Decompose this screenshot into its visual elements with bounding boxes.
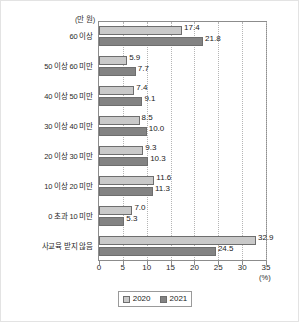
bar-value-label: 32.9 (258, 233, 274, 242)
bar-2020 (99, 56, 127, 65)
category-label: 사교육 받지 않음 (7, 232, 93, 262)
bar-value-label: 10.3 (150, 154, 166, 163)
bar-2021 (99, 97, 142, 106)
x-tick-label: 35 (262, 263, 271, 272)
bar-group: 40 이상 50 미만7.49.1 (99, 82, 266, 112)
bar-2020 (99, 146, 143, 155)
bar-value-label: 5.3 (126, 214, 137, 223)
plot-area: 60 이상17.421.850 이상 60 미만5.97.740 이상 50 미… (98, 21, 267, 261)
bar-2021 (99, 127, 147, 136)
bar-2020 (99, 176, 154, 185)
bar-value-label: 11.6 (156, 173, 171, 182)
bar-value-label: 7.4 (136, 83, 147, 92)
bar-2021 (99, 247, 216, 256)
bar-group: 10 이상 20 미만11.611.3 (99, 172, 266, 202)
category-label: 20 이상 30 미만 (7, 142, 93, 172)
legend-swatch-icon (123, 296, 130, 303)
bar-group: 30 이상 40 미만8.510.0 (99, 112, 266, 142)
bar-2021 (99, 37, 203, 46)
bar-value-label: 7.0 (134, 203, 145, 212)
bar-value-label: 10.0 (149, 124, 165, 133)
x-tick-label: 5 (121, 263, 125, 272)
category-label: 0 초과 10 미만 (7, 202, 93, 232)
category-label: 50 이상 60 미만 (7, 52, 93, 82)
bar-group: 50 이상 60 미만5.97.7 (99, 52, 266, 82)
bar-value-label: 7.7 (138, 64, 149, 73)
bar-value-label: 21.8 (205, 34, 221, 43)
bar-2021 (99, 157, 148, 166)
bar-2021 (99, 187, 153, 196)
x-tick-label: 20 (190, 263, 199, 272)
bar-group: 사교육 받지 않음32.924.5 (99, 232, 266, 262)
bar-value-label: 11.3 (155, 184, 170, 193)
bar-value-label: 17.4 (184, 23, 200, 32)
legend-item-2020[interactable]: 2020 (123, 295, 151, 303)
bar-group: 60 이상17.421.8 (99, 22, 266, 52)
chart-legend: 20202021 (118, 291, 192, 307)
legend-label: 2021 (170, 295, 188, 303)
x-axis-unit-label: (%) (259, 273, 271, 282)
bar-2021 (99, 67, 136, 76)
bar-group: 0 초과 10 미만7.05.3 (99, 202, 266, 232)
legend-item-2021[interactable]: 2021 (160, 295, 188, 303)
bar-2020 (99, 116, 140, 125)
bar-2021 (99, 217, 124, 226)
bar-value-label: 24.5 (218, 244, 234, 253)
legend-swatch-icon (160, 296, 167, 303)
legend-label: 2020 (133, 295, 151, 303)
bar-value-label: 8.5 (142, 113, 153, 122)
chart-figure: (만 원) 60 이상17.421.850 이상 60 미만5.97.740 이… (0, 0, 299, 322)
x-tick-label: 15 (166, 263, 175, 272)
category-label: 10 이상 20 미만 (7, 172, 93, 202)
x-tick-label: 10 (142, 263, 151, 272)
bar-value-label: 9.1 (144, 94, 155, 103)
bar-2020 (99, 26, 182, 35)
x-tick-label: 25 (214, 263, 223, 272)
category-label: 30 이상 40 미만 (7, 112, 93, 142)
x-tick-label: 30 (238, 263, 247, 272)
category-label: 40 이상 50 미만 (7, 82, 93, 112)
x-tick-label: 0 (97, 263, 101, 272)
bar-2020 (99, 86, 134, 95)
bar-value-label: 5.9 (129, 53, 140, 62)
bar-value-label: 9.3 (145, 143, 156, 152)
bar-group: 20 이상 30 미만9.310.3 (99, 142, 266, 172)
category-label: 60 이상 (7, 22, 93, 52)
gridline-35 (266, 22, 267, 260)
